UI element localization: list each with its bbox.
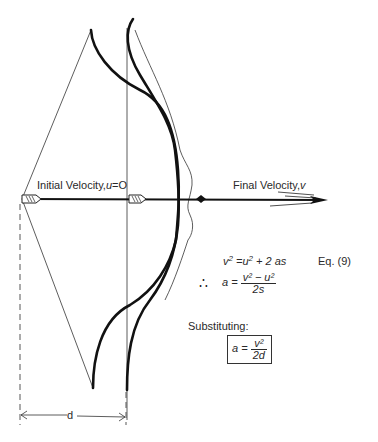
equation-kinematic: v2 =u2 + 2 as (223, 256, 286, 267)
final-velocity-text: Final Velocity, (233, 179, 300, 191)
arrow-shaft (22, 199, 322, 200)
drawn-string-upper (22, 30, 91, 199)
eq2-lhs: a = (222, 276, 238, 288)
speed-line (278, 192, 314, 195)
eq1-rest: + 2 as (253, 255, 286, 267)
substituting-label: Substituting: (188, 321, 249, 332)
initial-velocity-text: Initial Velocity, (37, 179, 106, 191)
initial-velocity-value: =O (112, 179, 127, 191)
therefore-symbol: ∴ (199, 276, 208, 290)
final-velocity-symbol: v (300, 179, 306, 191)
fletching-initial-icon (22, 195, 41, 203)
relaxed-bow-limb (127, 19, 179, 390)
result-lhs: a = (232, 342, 248, 354)
drawn-bow-limb (91, 30, 179, 388)
distance-label: d (67, 410, 73, 421)
equation-tag: Eq. (9) (318, 256, 351, 267)
bow-and-arrow-diagram (0, 0, 378, 442)
substituting-text: Substituting: (188, 320, 249, 332)
final-velocity-label: Final Velocity,v (233, 180, 306, 191)
eq-tag-text: Eq. (9) (318, 255, 351, 267)
eq2-fraction: v² − u² 2s (241, 272, 276, 295)
result-fraction: v² 2d (251, 338, 267, 361)
arrow-rest-diamond-icon (196, 195, 206, 203)
distance-dimension-line (77, 416, 125, 417)
initial-velocity-label: Initial Velocity,u=O (37, 180, 127, 191)
speed-line (270, 203, 312, 206)
drawn-string-lower (22, 199, 93, 388)
therefore-glyph: ∴ (199, 275, 208, 291)
distance-symbol: d (67, 409, 73, 421)
eq2-denominator: 2s (241, 284, 276, 295)
bow-vibration-outline (135, 30, 193, 300)
fletching-released-icon (129, 195, 146, 203)
result-equation-box: a = v² 2d (227, 335, 272, 364)
equation-acceleration: a = v² − u² 2s (222, 272, 276, 295)
result-denominator: 2d (251, 350, 267, 361)
